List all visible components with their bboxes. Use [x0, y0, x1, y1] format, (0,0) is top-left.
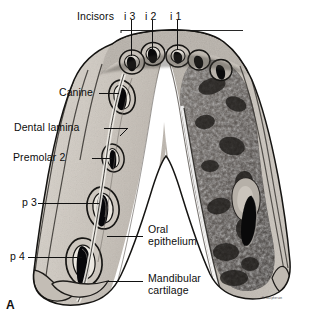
- label-dental-lamina: Dental lamina: [14, 122, 80, 134]
- label-premolar-2: Premolar 2: [13, 152, 65, 164]
- label-incisor-i3: i 3: [124, 11, 135, 23]
- label-incisor-i2: i 2: [145, 11, 156, 23]
- label-p4: p 4: [10, 251, 25, 263]
- label-p3: p 3: [22, 197, 37, 209]
- label-oral-epithelium-line2: epithelium: [148, 236, 197, 248]
- label-mandibular-cartilage-line2: cartilage: [148, 285, 189, 297]
- panel-label: A: [6, 298, 15, 312]
- label-incisor-i1: i 1: [170, 11, 181, 23]
- figure-panel-a: Incisors i 3 i 2 i 1 Canine Dental lamin…: [0, 0, 331, 321]
- label-incisors: Incisors: [77, 11, 114, 23]
- label-canine: Canine: [59, 87, 93, 99]
- label-oral-epithelium-line1: Oral: [148, 224, 168, 236]
- artist-credit: H. Macpherson: [262, 297, 282, 300]
- label-mandibular-cartilage-line1: Mandibular: [148, 273, 201, 285]
